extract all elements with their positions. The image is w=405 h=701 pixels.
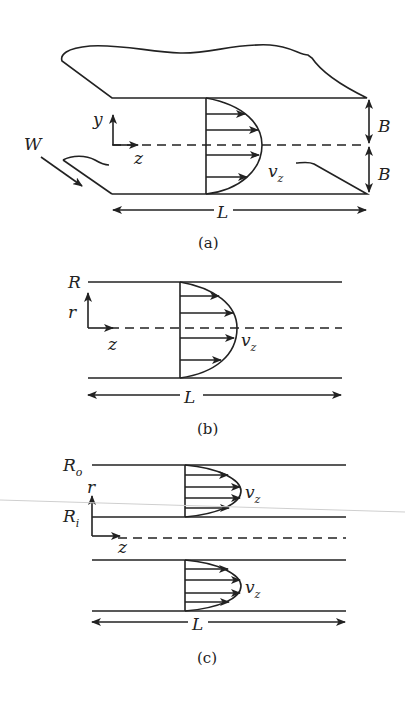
r-axis-label: r [87, 477, 96, 497]
length-label: L [183, 387, 195, 407]
y-axis-label: y [92, 109, 103, 129]
velocity-profile-bottom [185, 560, 241, 611]
caption-c: (c) [197, 649, 217, 667]
width-label: W [24, 134, 43, 154]
bottom-plate [112, 162, 367, 194]
length-label: L [191, 614, 203, 634]
velocity-label: vz [241, 330, 257, 354]
bottom-plate-break [63, 156, 109, 165]
outer-radius-label: Ro [62, 455, 83, 479]
velocity-label-bottom: vz [245, 577, 261, 601]
length-label: L [216, 202, 228, 222]
velocity-profile [206, 98, 262, 194]
panel-a-parallel-plates: y z W vz B B L (a) [24, 45, 391, 252]
velocity-label-top: vz [245, 482, 261, 506]
r-axis-label: r [68, 302, 77, 322]
z-axis-label: z [133, 148, 144, 168]
caption-b: (b) [197, 420, 218, 438]
half-gap-top-label: B [377, 116, 391, 136]
panel-b-circular-tube: R r z vz L (b) [67, 272, 342, 438]
z-axis-label: z [117, 537, 128, 557]
flow-geometry-figure: y z W vz B B L (a) R r z vz L [0, 0, 405, 701]
panel-c-annulus: Ro Ri r z vz vz L (c) [62, 455, 346, 667]
width-arrow [41, 157, 82, 186]
top-plate [62, 45, 367, 98]
z-axis-label: z [107, 334, 118, 354]
caption-a: (a) [198, 234, 219, 252]
radius-label: R [67, 272, 81, 292]
half-gap-bottom-label: B [377, 164, 391, 184]
inner-radius-label: Ri [62, 506, 79, 530]
velocity-label: vz [268, 161, 284, 185]
velocity-profile-top [185, 465, 241, 517]
scan-artifact-line [0, 500, 405, 512]
